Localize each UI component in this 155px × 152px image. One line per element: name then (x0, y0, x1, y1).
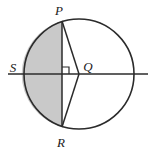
label-q: Q (83, 59, 93, 74)
geometry-canvas: P Q R S (0, 0, 155, 152)
label-s: S (10, 60, 17, 75)
geometry-figure: P Q R S (0, 0, 155, 152)
label-p: P (54, 3, 63, 18)
right-angle-marker-icon (62, 67, 69, 74)
radius-qr-line (62, 74, 79, 127)
radius-qp-line (62, 21, 79, 74)
label-r: R (56, 135, 65, 150)
